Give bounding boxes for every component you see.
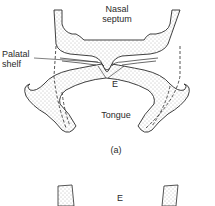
nasal-septum-label-line2: septum [99, 14, 135, 24]
panel-b-right-tissue [162, 185, 178, 206]
panel-a-caption: (a) [106, 145, 126, 155]
palatal-arch [25, 64, 190, 132]
palatal-shelf-label-line2: shelf [2, 59, 30, 69]
tongue-label: Tongue [96, 110, 136, 120]
epithelium-marker-a: E [112, 79, 118, 89]
palatal-shelf-label-line1: Palatal [2, 49, 30, 59]
panel-b-left-tissue [58, 185, 74, 206]
palatal-shelf-label: Palatal shelf [2, 49, 30, 69]
epithelium-marker-b: E [117, 193, 123, 203]
nasal-septum-label-line1: Nasal [99, 4, 135, 14]
palate-diagram [0, 0, 215, 206]
nasal-septum-label: Nasal septum [99, 4, 135, 24]
